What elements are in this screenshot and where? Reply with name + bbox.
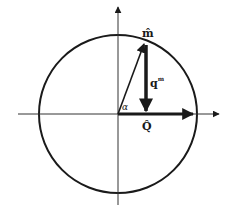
diagram-canvas: m̂ qm α Q̂ — [0, 0, 233, 216]
m-hat-label: m̂ — [142, 27, 154, 40]
Q-hat-label: Q̂ — [142, 120, 152, 133]
alpha-label: α — [122, 102, 128, 112]
q-m-superscript: m — [158, 75, 165, 82]
q-m-label: qm — [150, 75, 165, 90]
